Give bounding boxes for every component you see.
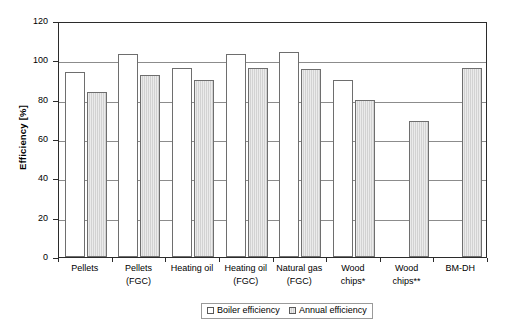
bar-annual-3 <box>248 68 268 257</box>
x-label-line: Heating oil <box>165 262 219 275</box>
x-label-2: Heating oil <box>165 262 219 275</box>
x-axis-category-labels: PelletsPellets(FGC)Heating oilHeating oi… <box>58 262 487 298</box>
x-label-line: Heating oil <box>219 262 273 275</box>
legend-label: Annual efficiency <box>299 305 367 316</box>
bar-boiler-4 <box>279 52 299 257</box>
bar-chart-figure: Efficiency [%] 020406080100120 PelletsPe… <box>0 0 510 327</box>
x-label-line: Pellets <box>58 262 112 275</box>
x-label-line: chips** <box>380 275 434 288</box>
y-tick-label-80: 80 <box>8 96 48 105</box>
x-label-0: Pellets <box>58 262 112 275</box>
x-label-line: (FGC) <box>112 275 166 288</box>
bar-boiler-5 <box>333 80 353 257</box>
bar-boiler-2 <box>172 68 192 257</box>
bar-boiler-3 <box>226 54 246 257</box>
bar-annual-7 <box>462 68 482 257</box>
x-label-1: Pellets(FGC) <box>112 262 166 287</box>
bar-annual-2 <box>194 80 214 257</box>
x-label-3: Heating oil(FGC) <box>219 262 273 287</box>
category-separator-8 <box>487 258 488 262</box>
bar-annual-1 <box>140 75 160 257</box>
y-tick-label-20: 20 <box>8 214 48 223</box>
bar-annual-5 <box>355 100 375 257</box>
legend-item-boiler: Boiler efficiency <box>207 305 280 316</box>
x-label-line: Wood <box>326 262 380 275</box>
bar-annual-4 <box>301 69 321 257</box>
legend-swatch-annual-icon <box>289 307 296 314</box>
chart-legend: Boiler efficiencyAnnual efficiency <box>201 303 373 319</box>
y-tick-label-60: 60 <box>8 135 48 144</box>
bars-layer <box>59 23 486 257</box>
legend-item-annual: Annual efficiency <box>289 305 367 316</box>
x-label-line: Wood <box>380 262 434 275</box>
x-label-6: Woodchips** <box>380 262 434 287</box>
x-label-line: (FGC) <box>273 275 327 288</box>
bar-annual-0 <box>87 92 107 257</box>
x-label-line: (FGC) <box>219 275 273 288</box>
y-tick-label-0: 0 <box>8 253 48 262</box>
bar-annual-6 <box>409 121 429 257</box>
x-label-line: chips* <box>326 275 380 288</box>
legend-swatch-boiler-icon <box>207 307 214 314</box>
legend-label: Boiler efficiency <box>217 305 280 316</box>
x-label-line: Pellets <box>112 262 166 275</box>
x-label-4: Natural gas(FGC) <box>273 262 327 287</box>
x-label-line: Natural gas <box>273 262 327 275</box>
bar-boiler-0 <box>65 72 85 257</box>
x-label-5: Woodchips* <box>326 262 380 287</box>
y-tick-label-120: 120 <box>8 17 48 26</box>
bar-boiler-1 <box>118 54 138 257</box>
x-label-line: BM-DH <box>433 262 487 275</box>
y-tick-label-40: 40 <box>8 174 48 183</box>
x-label-7: BM-DH <box>433 262 487 275</box>
plot-area <box>58 22 487 258</box>
y-tick-label-100: 100 <box>8 56 48 65</box>
